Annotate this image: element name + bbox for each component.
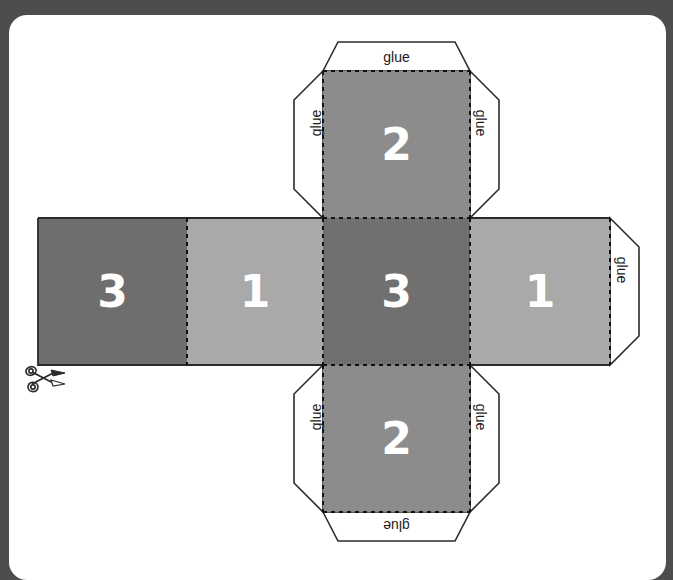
cube-net-diagram: 3 1 3 1 2 2 glue glue glue glue glue glu… [9, 15, 666, 580]
glue-label-right: glue [611, 210, 633, 330]
paper-page: 3 1 3 1 2 2 glue glue glue glue glue glu… [9, 15, 666, 580]
face-label-center-3: 3 [323, 218, 470, 365]
glue-label-bottom-left: glue [305, 357, 327, 477]
glue-label-top-left: glue [305, 63, 327, 183]
face-label-right-1: 1 [470, 218, 610, 365]
face-label-bottom-2: 2 [323, 365, 470, 512]
glue-label-bottom: glue [323, 515, 470, 537]
face-label-top-2: 2 [323, 71, 470, 218]
face-label-mid-1: 1 [187, 218, 323, 365]
glue-label-bottom-right: glue [470, 357, 492, 477]
glue-label-top: glue [323, 46, 470, 68]
glue-label-top-right: glue [470, 63, 492, 183]
scissors-icon [25, 365, 65, 392]
face-label-left-3: 3 [38, 218, 187, 365]
